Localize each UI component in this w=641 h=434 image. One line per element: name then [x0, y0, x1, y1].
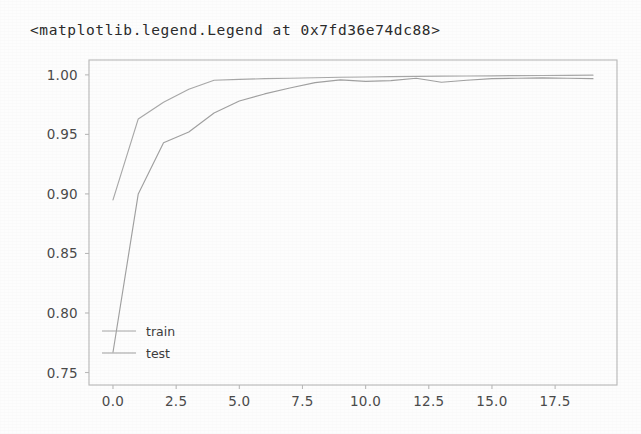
y-tick-label: 0.80: [47, 305, 78, 321]
series-line-train: [113, 75, 593, 200]
x-tick-label: 10.0: [350, 393, 381, 409]
y-tick-label: 0.90: [47, 186, 78, 202]
y-tick-label: 0.75: [47, 365, 78, 381]
legend-label-test: test: [146, 346, 170, 361]
x-tick-label: 7.5: [291, 393, 313, 409]
y-axis-ticks: 0.750.800.850.900.951.00: [47, 67, 89, 381]
x-tick-label: 12.5: [413, 393, 444, 409]
cell-output-repr-text: <matplotlib.legend.Legend at 0x7fd36e74d…: [30, 22, 441, 38]
y-tick-label: 1.00: [47, 67, 78, 83]
x-tick-label: 5.0: [228, 393, 250, 409]
x-tick-label: 15.0: [476, 393, 507, 409]
chart-legend[interactable]: traintest: [102, 324, 175, 361]
line-chart: 0.02.55.07.510.012.515.017.5 0.750.800.8…: [0, 48, 641, 434]
series-line-test: [113, 78, 593, 352]
x-tick-label: 17.5: [539, 393, 570, 409]
y-tick-label: 0.95: [47, 126, 78, 142]
x-tick-label: 2.5: [165, 393, 187, 409]
data-series-group: [113, 75, 593, 352]
legend-label-train: train: [146, 324, 175, 339]
x-tick-label: 0.0: [102, 393, 124, 409]
notebook-cell-output: <matplotlib.legend.Legend at 0x7fd36e74d…: [0, 0, 641, 434]
y-tick-label: 0.85: [47, 245, 78, 261]
matplotlib-figure: 0.02.55.07.510.012.515.017.5 0.750.800.8…: [0, 48, 641, 434]
x-axis-ticks: 0.02.55.07.510.012.515.017.5: [102, 385, 571, 409]
